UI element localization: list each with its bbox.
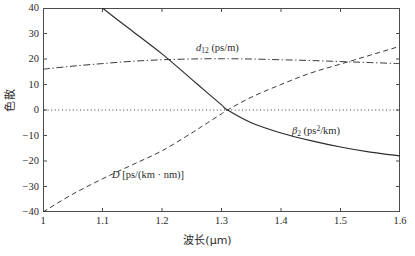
annotation-d12-label: d12 (ps/m): [196, 42, 239, 55]
y-tick-label: 20: [3, 54, 39, 65]
x-tick-label: 1.2: [155, 216, 168, 227]
x-tick-label: 1.1: [96, 216, 109, 227]
x-tick-label: 1.6: [393, 216, 406, 227]
plot-area: [43, 8, 400, 212]
annotation-beta2-label: β2 (ps2/km): [292, 124, 340, 138]
x-tick-label: 1.3: [215, 216, 228, 227]
x-tick-label: 1.4: [274, 216, 287, 227]
y-axis-title: 色散: [1, 77, 17, 123]
y-tick-label: 40: [3, 3, 39, 14]
y-tick-label: 30: [3, 28, 39, 39]
x-tick-label: 1: [40, 216, 45, 227]
y-tick-label: −40: [3, 207, 39, 218]
y-tick-label: −10: [3, 130, 39, 141]
x-tick-label: 1.5: [334, 216, 347, 227]
y-axis-tick-labels: 403020100−10−20−30−40: [0, 0, 39, 256]
annotation-D-label: D [ps/(km · nm)]: [112, 169, 184, 180]
y-tick-label: −20: [3, 156, 39, 167]
chart-figure: 403020100−10−20−30−40 色散 波长(μm) d12 (ps/…: [0, 0, 415, 256]
y-tick-label: −30: [3, 181, 39, 192]
x-axis-title: 波长(μm): [0, 231, 415, 247]
